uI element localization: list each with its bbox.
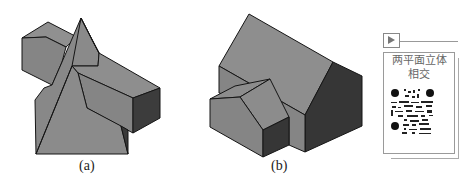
qr-code[interactable] (390, 88, 440, 138)
card-top-line (398, 41, 458, 42)
qr-finder-bl (391, 122, 399, 130)
qr-card-title: 两平面立体 相交 (383, 54, 455, 82)
qr-card-title-line1: 两平面立体 (383, 54, 455, 68)
qr-card-title-line2: 相交 (383, 68, 455, 82)
figure-a-caption: (a) (79, 158, 95, 174)
play-icon (388, 36, 395, 44)
play-button[interactable] (383, 33, 400, 48)
qr-finder-tr (426, 89, 434, 97)
figure-b-caption: (b) (271, 158, 287, 174)
qr-finder-tl (391, 89, 399, 97)
